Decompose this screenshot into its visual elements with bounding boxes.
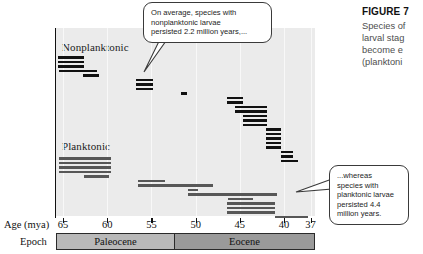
group-label-planktonic: Planktonic — [62, 140, 110, 152]
species-range-bar — [59, 70, 97, 73]
callout-nonplanktonic: On average, species with nonplanktonic l… — [143, 2, 272, 43]
species-range-bar — [266, 128, 281, 131]
x-axis-tick-label: 40 — [279, 219, 290, 230]
age-axis-title: Age (mya) — [4, 219, 49, 230]
species-range-bar — [59, 162, 111, 165]
species-range-bar — [136, 79, 154, 82]
species-range-bar — [227, 207, 275, 210]
x-axis-tick-label: 55 — [146, 219, 157, 230]
species-range-bar — [228, 198, 253, 201]
species-range-bar — [243, 124, 267, 127]
species-range-bar — [243, 115, 267, 118]
species-range-bar — [59, 166, 111, 169]
x-axis-tick-label: 65 — [58, 219, 69, 230]
figure-title: FIGURE 7 — [362, 6, 423, 17]
epoch-band-eocene: Eocene — [174, 233, 315, 250]
x-axis-tick-label: 60 — [102, 219, 113, 230]
species-range-bar — [266, 133, 281, 136]
callout-top-line-1: On average, species with — [151, 8, 264, 18]
figure-caption-body: Species of larval stag become e (plankto… — [362, 20, 423, 68]
species-range-bar — [266, 142, 281, 145]
epoch-axis-title: Epoch — [20, 236, 47, 247]
caption-line-2: larval stag — [362, 32, 423, 44]
y-axis-line — [55, 28, 56, 218]
x-axis-tick-label: 50 — [190, 219, 201, 230]
species-range-bar — [235, 106, 267, 109]
gridline — [107, 28, 108, 216]
species-range-bar — [136, 83, 154, 86]
species-range-bar — [227, 97, 243, 100]
species-range-bar — [188, 193, 277, 196]
species-range-bar — [235, 110, 267, 113]
species-range-bar — [227, 211, 275, 214]
figure-caption: FIGURE 7 Species of larval stag become e… — [362, 6, 423, 68]
species-range-bar — [58, 56, 85, 59]
species-range-bar — [281, 160, 299, 163]
species-range-bar — [227, 202, 275, 205]
species-range-bar — [59, 157, 111, 160]
callout-bottom-line-3: planktonic larvae — [337, 190, 401, 200]
species-range-bar — [58, 65, 85, 68]
caption-line-1: Species of — [362, 20, 423, 32]
gridline — [240, 28, 241, 216]
species-range-bar — [138, 184, 213, 187]
callout-bottom-line-1: ...whereas — [337, 171, 401, 181]
x-axis-tick-label: 45 — [235, 219, 246, 230]
callout-planktonic: ...whereas species with planktonic larva… — [329, 165, 409, 225]
epoch-band-paleocene: Paleocene — [56, 233, 174, 250]
species-range-bar — [83, 74, 99, 77]
species-range-bar — [227, 101, 243, 104]
species-range-bar — [281, 155, 293, 158]
gridline — [284, 28, 285, 216]
callout-top-line-2: nonplanktonic larvae — [151, 18, 264, 28]
figure-root: Nonplanktonic Planktonic 65605550454037 … — [0, 0, 423, 254]
species-range-bar — [188, 189, 199, 192]
callout-top-line-3: persisted 2.2 million years,... — [151, 27, 264, 37]
callout-bottom-line-2: species with — [337, 181, 401, 191]
callout-bottom-line-5: million years. — [337, 209, 401, 219]
species-range-bar — [58, 61, 85, 64]
species-range-bar — [84, 175, 109, 178]
species-range-bar — [281, 151, 293, 154]
species-range-bar — [136, 88, 154, 91]
species-range-bar — [243, 119, 267, 122]
caption-line-3: become e — [362, 44, 423, 56]
x-axis-tick-label: 37 — [305, 219, 316, 230]
species-range-bar — [181, 92, 187, 95]
species-range-bar — [138, 180, 165, 183]
caption-line-4: (planktoni — [362, 56, 423, 68]
species-range-bar — [275, 216, 308, 219]
group-label-nonplanktonic: Nonplanktonic — [62, 41, 129, 53]
species-range-bar — [59, 171, 111, 174]
species-range-bar — [266, 137, 281, 140]
species-range-bar — [266, 146, 281, 149]
callout-bottom-line-4: persisted 4.4 — [337, 200, 401, 210]
